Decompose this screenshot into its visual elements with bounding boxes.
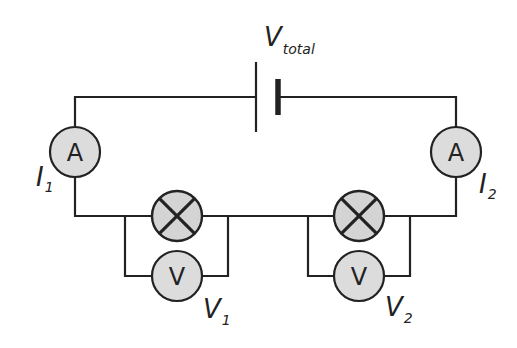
ammeter-2-symbol: A [448, 139, 465, 167]
voltmeter-2: V V2 [334, 251, 413, 326]
ammeter-2: A I2 [431, 127, 497, 202]
lamp-2 [334, 191, 384, 241]
ammeter-2-label: I2 [479, 169, 497, 202]
voltmeter-1-label: V1 [203, 294, 231, 328]
voltmeter-2-label: V2 [385, 292, 413, 326]
battery: Vtotal [256, 22, 315, 132]
wire-left-bottom [75, 177, 152, 216]
wire-top-left [75, 97, 256, 126]
wire-right-bottom [384, 178, 456, 216]
ammeter-1-label: I1 [36, 162, 54, 195]
battery-label: Vtotal [264, 22, 315, 57]
wires [75, 97, 456, 276]
wire-branch-1-right [202, 216, 228, 276]
wire-top-right [280, 97, 456, 127]
voltmeter-1: V V1 [152, 251, 231, 328]
circuit-diagram: Vtotal A I1 A I2 V V1 [0, 0, 517, 348]
ammeter-1-symbol: A [67, 139, 84, 167]
ammeter-1: A I1 [36, 127, 100, 195]
wire-branch-2-left [308, 216, 334, 276]
voltmeter-2-symbol: V [351, 263, 368, 291]
wire-branch-1-left [125, 216, 152, 276]
lamp-1 [152, 191, 202, 241]
voltmeter-1-symbol: V [169, 263, 186, 291]
wire-branch-2-right [384, 216, 410, 276]
